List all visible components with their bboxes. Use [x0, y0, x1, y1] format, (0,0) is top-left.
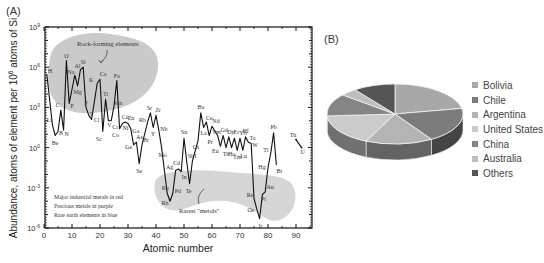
element-label: Hf — [242, 128, 248, 134]
element-label: S — [89, 111, 92, 117]
legend-item-australia: Australia — [472, 151, 543, 166]
element-label: W — [252, 142, 258, 148]
legend-swatch — [472, 170, 478, 176]
element-label: C — [56, 102, 60, 108]
element-label: La — [200, 130, 207, 136]
legend-item-chile: Chile — [472, 93, 543, 108]
x-tick-label: 20 — [96, 231, 105, 240]
element-label: In — [182, 174, 187, 180]
element-label: N — [64, 131, 69, 137]
element-label: Sr — [147, 105, 152, 111]
element-label: Se — [136, 168, 142, 174]
element-label: Ca — [100, 71, 107, 77]
element-label: Nd — [212, 118, 219, 124]
legend-item-united-states: United States — [472, 122, 543, 137]
element-label: Rh — [161, 200, 168, 206]
element-label: Mg — [73, 89, 81, 95]
element-label: Zr — [155, 107, 161, 113]
legend-label: Australia — [483, 153, 522, 164]
pie-legend: Bolivia Chile Argentina United States Ch… — [472, 78, 543, 181]
legend-item-argentina: Argentina — [472, 107, 543, 122]
x-tick-label: 50 — [180, 231, 189, 240]
x-tick-label: 0 — [42, 231, 47, 240]
element-label: Pb — [270, 124, 276, 130]
legend-swatch — [472, 141, 478, 147]
element-label: Y — [151, 131, 156, 137]
element-label: Ti — [103, 91, 108, 97]
legend-swatch — [472, 156, 478, 162]
legend-item-china: China — [472, 137, 543, 152]
element-label: Sb — [188, 153, 194, 159]
x-tick-label: 90 — [292, 231, 301, 240]
element-label: H — [48, 68, 53, 74]
element-label: Si — [81, 59, 86, 65]
element-label: Mn — [114, 100, 122, 106]
element-label: Ba — [197, 104, 204, 110]
legend-swatch — [472, 97, 478, 103]
abundance-chart: 10910610310010-310-6 0102030405060708090… — [0, 0, 320, 263]
element-label: O — [64, 53, 69, 59]
pie-slices — [327, 84, 463, 144]
y-tick-label: 100 — [29, 143, 40, 153]
element-label: Os — [247, 207, 254, 213]
element-label: Ga — [132, 128, 139, 134]
legend-label: China — [483, 139, 509, 150]
y-axis-title: Abundance, atoms of element per 106 atom… — [7, 18, 19, 238]
x-axis-title: Atomic number — [143, 242, 214, 254]
y-tick-label: 109 — [29, 22, 40, 32]
note-precious: Precious metals in purple — [54, 203, 113, 209]
element-label: K — [89, 77, 94, 83]
note-industrial: Major industrial metals in red — [54, 194, 123, 200]
element-label: Au — [267, 184, 274, 190]
element-label: Co — [112, 132, 119, 138]
element-label: Na — [67, 69, 74, 75]
element-label: Mo — [158, 152, 166, 158]
element-label: Th — [290, 132, 297, 138]
element-label: Eu — [212, 148, 219, 154]
element-label: Sn — [181, 129, 187, 135]
element-label: Sc — [96, 136, 102, 142]
y-tick-label: 106 — [29, 62, 40, 72]
x-tick-label: 60 — [208, 231, 217, 240]
pie-chart — [320, 75, 470, 175]
element-label: Fe — [114, 73, 120, 79]
legend-label: Others — [483, 168, 513, 179]
element-label: B — [59, 130, 63, 136]
element-label: Zn — [128, 115, 135, 121]
legend-swatch — [472, 126, 478, 132]
element-label: Pd — [175, 188, 181, 194]
element-label: Cd — [173, 160, 180, 166]
legend-item-bolivia: Bolivia — [472, 78, 543, 93]
y-tick-label: 10-3 — [27, 183, 40, 193]
element-label: Nb — [160, 126, 167, 132]
element-label: Be — [52, 140, 59, 146]
element-label: U — [300, 149, 305, 155]
legend-label: Bolivia — [483, 80, 512, 91]
element-label: I — [194, 153, 196, 159]
x-tick-label: 30 — [124, 231, 133, 240]
x-tick-label: 70 — [236, 231, 245, 240]
element-label: Cs — [193, 144, 200, 150]
element-label: Ir — [259, 223, 263, 229]
element-label: Ni — [122, 125, 128, 131]
element-label: Pt — [261, 196, 266, 202]
rarest-metals-region — [154, 170, 295, 221]
legend-item-others: Others — [472, 166, 543, 181]
element-label: Hg — [258, 164, 265, 170]
x-tick-label: 10 — [68, 231, 77, 240]
x-tick-label: 40 — [152, 231, 161, 240]
element-label: Ta — [249, 135, 255, 141]
note-rare-earth: Rare earth elements in blue — [54, 212, 118, 218]
legend-label: Argentina — [483, 109, 526, 120]
element-label: Cr — [112, 124, 118, 130]
rarest-metals-label: Rarest "metals" — [179, 207, 220, 214]
element-label: Bi — [277, 168, 283, 174]
legend-swatch — [472, 112, 478, 118]
x-tick-label: 80 — [264, 231, 273, 240]
panel-b-label: (B) — [324, 33, 339, 45]
element-label: Ru — [162, 185, 169, 191]
element-label: Re — [247, 192, 254, 198]
element-label: Te — [186, 188, 192, 194]
element-label: Li — [47, 117, 53, 123]
element-label: Lu — [240, 153, 247, 159]
